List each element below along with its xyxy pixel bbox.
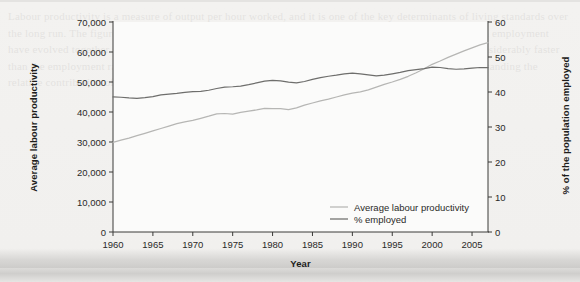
y-axis-left-tick-label: 50,000 [77,77,106,88]
y-axis-right-tick-label: 50 [495,52,506,63]
x-axis-tick-label: 1975 [222,239,243,250]
y-axis-right-title: % of the population employed [560,31,571,221]
y-axis-right-tick-label: 10 [495,192,506,203]
x-axis-tick-label: 1990 [342,239,363,250]
page-edge-strip [0,268,580,282]
y-axis-left-tick-label: 0 [101,227,106,238]
figure-panel: Labour productivity is a measure of outp… [0,0,580,282]
legend-label-2: % employed [354,214,406,225]
y-axis-right-tick-label: 60 [495,17,506,28]
x-axis-tick-label: 1980 [262,239,283,250]
y-axis-left-tick-label: 60,000 [77,47,106,58]
y-axis-left-tick-label: 20,000 [77,167,106,178]
x-axis-tick-label: 1965 [142,239,163,250]
x-axis-tick-label: 1985 [302,239,323,250]
y-axis-right-tick-label: 0 [495,227,500,238]
y-axis-right-tick-label: 20 [495,157,506,168]
x-axis-tick-label: 1995 [382,239,403,250]
x-axis-tick-label: 1960 [102,239,123,250]
legend-label-1: Average labour productivity [354,202,469,213]
y-axis-left-tick-label: 30,000 [77,137,106,148]
plot-area-background [113,22,488,232]
y-axis-left-tick-label: 10,000 [77,197,106,208]
y-axis-right-tick-label: 40 [495,87,506,98]
y-axis-left-title: Average labour productivity [28,43,39,213]
y-axis-right-tick-label: 30 [495,122,506,133]
x-axis-tick-label: 2005 [461,239,482,250]
x-axis-tick-label: 1970 [182,239,203,250]
y-axis-left-tick-label: 70,000 [77,17,106,28]
dual-axis-line-chart: 010,00020,00030,00040,00050,00060,00070,… [0,2,580,282]
x-axis-tick-label: 2000 [422,239,443,250]
y-axis-left-tick-label: 40,000 [77,107,106,118]
